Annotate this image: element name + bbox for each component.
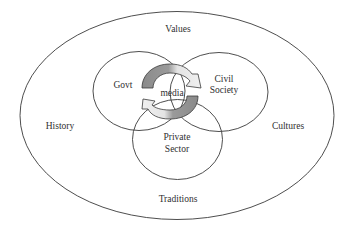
sector-label-civil-society-line2: Society — [210, 85, 239, 95]
context-label-values: Values — [165, 24, 191, 34]
cycle-arrow-top-icon — [142, 64, 201, 88]
center-label-media: media — [160, 88, 184, 98]
cycle-arrow-bottom-icon — [142, 96, 198, 119]
media-society-diagram: media Govt Civil Society Private Sector … — [0, 0, 350, 225]
context-label-cultures: Cultures — [272, 121, 304, 131]
context-label-traditions: Traditions — [159, 194, 198, 204]
sector-label-private-sector-line2: Sector — [165, 144, 190, 154]
sector-label-private-sector-line1: Private — [164, 132, 191, 142]
context-label-history: History — [46, 121, 75, 131]
sector-label-civil-society-line1: Civil — [214, 74, 233, 84]
sector-label-govt: Govt — [114, 80, 133, 90]
